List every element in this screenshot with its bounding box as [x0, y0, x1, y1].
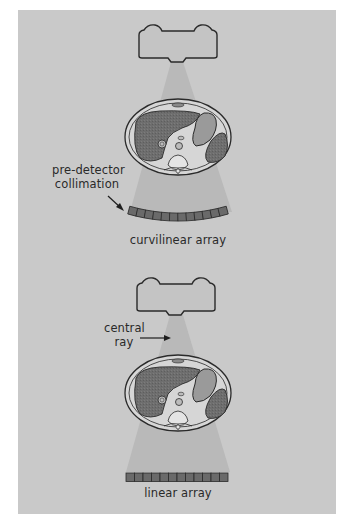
detector-cell: [203, 473, 212, 482]
detector-cell: [194, 473, 203, 482]
detector-cell: [220, 473, 229, 482]
detector-cell: [126, 473, 135, 482]
detector-cell: [169, 473, 178, 482]
vessel-aorta: [176, 143, 183, 150]
callout-line-1: pre-detector: [52, 163, 122, 177]
ct-detector-arrays-diagram: [0, 0, 356, 523]
vessel-ivc: [158, 140, 166, 148]
detector-cell: [152, 473, 161, 482]
detector-cell: [211, 473, 220, 482]
callout-line-2: collimation: [52, 177, 122, 191]
detector-cell: [218, 206, 228, 216]
xray-tube-icon: [139, 25, 217, 62]
detector-cell: [153, 211, 162, 220]
detector-cell: [186, 212, 195, 221]
callout-line-1: central: [104, 321, 144, 335]
detector-cell: [135, 473, 144, 482]
body-cross-section-icon: [125, 355, 231, 431]
vessel-aorta: [176, 399, 183, 406]
callout-line-2: ray: [104, 335, 144, 349]
bottom-setup: [125, 278, 231, 482]
curvilinear-array-label: curvilinear array: [128, 233, 228, 247]
linear-array-label: linear array: [128, 486, 228, 500]
vessel-ivc: [158, 396, 166, 404]
detector-cell: [143, 473, 152, 482]
detector-cell: [186, 473, 195, 482]
linear-detector-array: [126, 473, 228, 482]
top-setup: [108, 25, 232, 221]
detector-cell: [177, 473, 186, 482]
detector-cell: [169, 213, 178, 221]
central-ray-label: central ray: [104, 321, 144, 349]
xray-tube-icon: [137, 278, 215, 315]
body-cross-section-icon: [125, 99, 231, 175]
detector-cell: [160, 473, 169, 482]
pre-detector-collimation-label: pre-detector collimation: [52, 163, 122, 191]
detector-cell: [178, 213, 187, 221]
detector-cell: [161, 212, 170, 221]
